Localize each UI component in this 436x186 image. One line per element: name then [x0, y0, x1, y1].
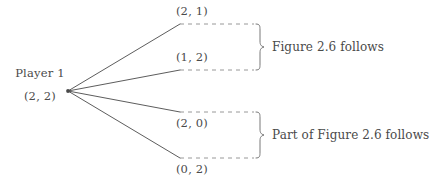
decision-node-dot [66, 89, 70, 93]
branch-continuations [180, 24, 254, 158]
payoff-label-branch-3: (2, 0) [176, 118, 208, 130]
brace-top [256, 24, 264, 70]
tree-diagram-canvas [0, 0, 436, 186]
brace-bottom [256, 112, 264, 158]
branch-edges [68, 24, 180, 158]
payoff-label-branch-1: (2, 1) [176, 6, 208, 18]
root-payoff-label: (2, 2) [24, 91, 56, 103]
payoff-label-branch-4: (0, 2) [176, 164, 208, 176]
payoff-label-branch-2: (1, 2) [176, 52, 208, 64]
game-tree-figure: Player 1 (2, 2) (2, 1) (1, 2) (2, 0) (0,… [0, 0, 436, 186]
annotation-top: Figure 2.6 follows [272, 41, 384, 53]
annotation-bottom: Part of Figure 2.6 follows [272, 129, 429, 141]
player-label: Player 1 [15, 68, 65, 80]
